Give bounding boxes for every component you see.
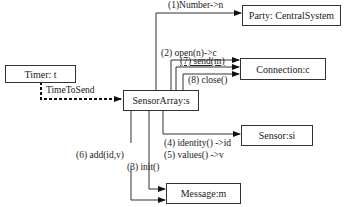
msg-1-label: (1)Number->n [168, 1, 223, 11]
message-label: Message:m [181, 188, 227, 199]
add-arrow [131, 110, 165, 200]
msg-8-label: (8) close() [188, 76, 227, 86]
timer-label: Timer: t [24, 69, 56, 80]
msg-3-label: (3) init() [127, 163, 159, 173]
msg-7-label: (7) send(m) [180, 57, 225, 67]
connection-object[interactable]: Connection:c [240, 58, 326, 80]
sensor-object[interactable]: Sensor:si [241, 125, 313, 146]
msg-6-label: (6) add(id,v) [76, 151, 124, 161]
sensor-arrow [163, 110, 240, 134]
message-object[interactable]: Message:m [166, 183, 241, 204]
timer-object[interactable]: Timer: t [5, 65, 76, 83]
sensor-array-object[interactable]: SensorArray:s [123, 90, 199, 111]
connection-label: Connection:c [256, 64, 309, 75]
party-object[interactable]: Party: CentralSystem [242, 5, 341, 26]
msg-5-label: (5) values() ->v [164, 151, 224, 161]
sensor-array-label: SensorArray:s [132, 95, 189, 106]
msg-4-label: (4) identity() ->id [164, 139, 231, 149]
party-label: Party: CentralSystem [249, 10, 334, 21]
sensor-label: Sensor:si [259, 130, 296, 141]
time-to-send-label: TimeToSend [46, 86, 95, 96]
